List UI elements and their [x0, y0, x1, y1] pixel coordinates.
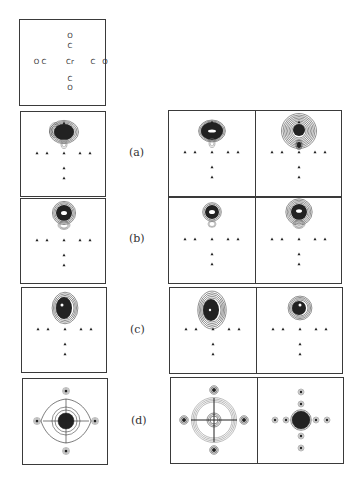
- molecule-key-panel: OCO CCrCOCO: [19, 19, 106, 106]
- atom-marker-icon: [298, 150, 301, 153]
- atom-marker-icon: [211, 150, 214, 153]
- atom-marker-icon: [227, 237, 230, 240]
- atom-label: C: [68, 75, 73, 83]
- row-label-d: (d): [131, 414, 147, 427]
- atom-marker-icon: [281, 237, 284, 240]
- atom-marker-icon: [63, 263, 66, 266]
- atom-marker-icon: [64, 327, 67, 330]
- atom-marker-icon: [299, 342, 302, 345]
- contour-plot-a-left: [21, 112, 107, 198]
- atom-marker-icon: [47, 327, 50, 330]
- atom-marker-icon: [184, 237, 187, 240]
- contour-plot-b-center: [169, 198, 255, 284]
- atom-marker-icon: [185, 327, 188, 330]
- panel-d-right: [170, 377, 344, 464]
- panel-a-right: [168, 110, 342, 197]
- atom-marker-icon: [299, 327, 302, 330]
- atom-marker-icon: [79, 238, 82, 241]
- atom-marker-icon: [325, 327, 328, 330]
- atom-marker-icon: [298, 252, 301, 255]
- contour-plot-a-right: [256, 111, 342, 197]
- atom-label: O: [67, 84, 73, 92]
- atom-label: O: [102, 58, 108, 66]
- atom-label: O C: [34, 58, 47, 66]
- atom-marker-icon: [90, 327, 93, 330]
- panel-a-left: [20, 111, 106, 197]
- contour-plot-d-left: [23, 379, 109, 465]
- contour-plot-c-left: [22, 288, 108, 374]
- atom-marker-icon: [237, 237, 240, 240]
- atom-marker-icon: [237, 150, 240, 153]
- row-label-a: (a): [129, 146, 144, 159]
- atom-marker-icon: [63, 176, 66, 179]
- atom-marker-icon: [64, 352, 67, 355]
- panel-c-right: [169, 287, 343, 374]
- atom-marker-icon: [63, 151, 66, 154]
- atom-marker-icon: [211, 165, 214, 168]
- row-label-b: (b): [129, 232, 145, 245]
- atom-marker-icon: [46, 151, 49, 154]
- atom-marker-icon: [36, 238, 39, 241]
- atom-marker-icon: [228, 327, 231, 330]
- row-label-c: (c): [130, 323, 145, 336]
- atom-marker-icon: [63, 238, 66, 241]
- contour-plot-d-right: [258, 378, 344, 464]
- atom-marker-icon: [211, 262, 214, 265]
- atom-marker-icon: [299, 352, 302, 355]
- contour-plot-b-right: [256, 198, 342, 284]
- atom-marker-icon: [315, 327, 318, 330]
- atom-marker-icon: [314, 150, 317, 153]
- atom-marker-icon: [272, 327, 275, 330]
- atom-marker-icon: [89, 151, 92, 154]
- panel-c-left: [21, 287, 107, 373]
- atom-marker-icon: [282, 327, 285, 330]
- atom-marker-icon: [211, 252, 214, 255]
- atom-marker-icon: [211, 175, 214, 178]
- atom-label: C: [91, 58, 96, 66]
- atom-marker-icon: [79, 151, 82, 154]
- atom-marker-icon: [194, 150, 197, 153]
- atom-marker-icon: [238, 327, 241, 330]
- atom-marker-icon: [195, 327, 198, 330]
- contour-plot-b-left: [21, 199, 107, 285]
- atom-label: O: [67, 32, 73, 40]
- contour-plot-c-right: [257, 288, 343, 374]
- panel-b-right: [168, 197, 342, 284]
- atom-marker-icon: [64, 342, 67, 345]
- atom-marker-icon: [281, 150, 284, 153]
- atom-marker-icon: [89, 238, 92, 241]
- atom-marker-icon: [324, 237, 327, 240]
- atom-marker-icon: [271, 150, 274, 153]
- atom-marker-icon: [211, 237, 214, 240]
- atom-marker-icon: [63, 166, 66, 169]
- atom-label: Cr: [66, 58, 74, 66]
- atom-marker-icon: [314, 237, 317, 240]
- atom-marker-icon: [298, 175, 301, 178]
- atom-marker-icon: [36, 151, 39, 154]
- panel-d-left: [22, 378, 108, 465]
- atom-label: C: [68, 42, 73, 50]
- atom-marker-icon: [194, 237, 197, 240]
- contour-plot-c-center: [170, 288, 256, 374]
- atom-marker-icon: [212, 342, 215, 345]
- panel-b-left: [20, 198, 106, 284]
- atom-marker-icon: [298, 237, 301, 240]
- atom-marker-icon: [63, 253, 66, 256]
- atom-marker-icon: [80, 327, 83, 330]
- atom-marker-icon: [298, 262, 301, 265]
- atom-marker-icon: [184, 150, 187, 153]
- contour-plot-d-center: [171, 378, 257, 464]
- atom-marker-icon: [227, 150, 230, 153]
- atom-marker-icon: [37, 327, 40, 330]
- contour-plot-a-center: [169, 111, 255, 197]
- atom-marker-icon: [46, 238, 49, 241]
- atom-marker-icon: [212, 352, 215, 355]
- atom-marker-icon: [298, 165, 301, 168]
- atom-marker-icon: [324, 150, 327, 153]
- atom-marker-icon: [271, 237, 274, 240]
